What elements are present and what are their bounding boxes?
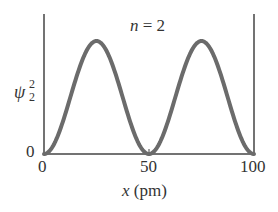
- y-axis-label: ψ 2 2: [14, 82, 25, 103]
- x-label-unit: (pm): [130, 181, 167, 200]
- y-label-base: ψ: [14, 82, 25, 102]
- y-tick-label-0: 0: [26, 142, 35, 162]
- y-label-sub: 2: [29, 91, 35, 103]
- probability-density-curve: [44, 41, 254, 154]
- y-label-sup: 2: [29, 78, 35, 90]
- x-tick-label-50: 50: [140, 157, 157, 177]
- x-tick-label-100: 100: [240, 157, 266, 177]
- annotation-value: = 2: [139, 16, 166, 35]
- x-label-var: x: [122, 181, 130, 200]
- x-axis-label: x (pm): [122, 181, 167, 201]
- annotation-n: n = 2: [130, 16, 165, 36]
- x-tick-label-0: 0: [38, 157, 47, 177]
- annotation-var: n: [130, 16, 139, 35]
